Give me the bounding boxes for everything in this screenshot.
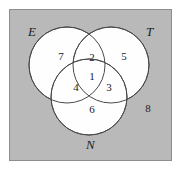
region-label-center-all: 1 bbox=[89, 71, 95, 82]
region-label-t-and-n: 3 bbox=[106, 82, 112, 93]
region-label-n-only: 6 bbox=[89, 104, 95, 115]
region-label-outside: 8 bbox=[145, 103, 151, 114]
set-label-e: E bbox=[28, 25, 36, 38]
region-label-e-and-t: 2 bbox=[89, 52, 95, 63]
region-label-t-only: 5 bbox=[121, 51, 127, 62]
set-label-n: N bbox=[86, 138, 95, 151]
venn-diagram-screenshot: E T N 1 2 3 4 5 6 7 8 bbox=[0, 0, 183, 170]
region-label-e-and-n: 4 bbox=[73, 82, 79, 93]
region-label-e-only: 7 bbox=[58, 51, 64, 62]
set-label-t: T bbox=[146, 25, 153, 38]
